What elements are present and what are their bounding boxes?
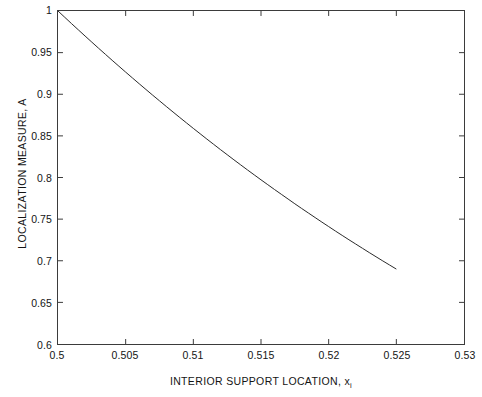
- y-tick-label: 0.85: [31, 131, 52, 142]
- x-axis-tick-marks: [126, 11, 397, 344]
- y-tick-label: 0.75: [31, 214, 52, 225]
- x-axis-title-main: INTERIOR SUPPORT LOCATION, x: [170, 375, 350, 387]
- x-axis-title-subscript: i: [350, 381, 352, 390]
- y-tick-label: 0.8: [37, 173, 52, 184]
- x-tick-label: 0.505: [112, 350, 139, 361]
- x-tick-label: 0.5: [50, 350, 65, 361]
- x-tick-label: 0.515: [248, 350, 275, 361]
- y-tick-label: 0.9: [37, 89, 52, 100]
- x-tick-label: 0.53: [455, 350, 476, 361]
- y-tick-label: 1: [46, 5, 52, 16]
- y-axis-tick-labels: 0.60.650.70.750.80.850.90.951: [5, 10, 52, 345]
- y-axis-title: LOCALIZATION MEASURE, A: [17, 74, 28, 274]
- x-tick-label: 0.51: [183, 350, 204, 361]
- y-tick-label: 0.7: [37, 256, 52, 267]
- x-tick-label: 0.52: [319, 350, 340, 361]
- y-tick-label: 0.95: [31, 47, 52, 58]
- plot-area: [57, 10, 465, 345]
- plot-svg: [58, 11, 464, 344]
- x-axis-title: INTERIOR SUPPORT LOCATION, xi: [57, 375, 465, 387]
- figure-canvas: 0.60.650.70.750.80.850.90.951 0.50.5050.…: [0, 0, 482, 397]
- x-axis-tick-labels: 0.50.5050.510.5150.520.5250.53: [57, 350, 465, 364]
- data-series-line: [58, 11, 396, 269]
- x-tick-label: 0.525: [384, 350, 411, 361]
- y-tick-label: 0.65: [31, 298, 52, 309]
- y-axis-tick-marks: [58, 53, 464, 303]
